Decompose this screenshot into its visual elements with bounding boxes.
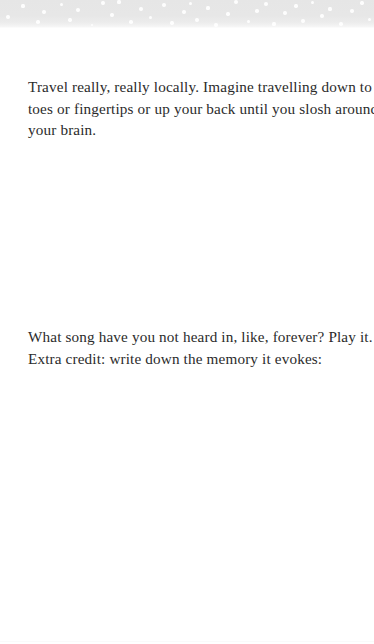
banner-dot <box>6 15 10 19</box>
paragraph-line: Travel really, really locally. Imagine t… <box>28 76 364 98</box>
paragraph-line: your brain. <box>28 119 364 141</box>
content-column: Travel really, really locally. Imagine t… <box>28 0 364 644</box>
paragraph-line: Extra credit: write down the memory it e… <box>28 348 364 370</box>
paragraph-line: toes or fingertips or up your back until… <box>28 98 364 120</box>
paragraph-travel-locally: Travel really, really locally. Imagine t… <box>28 76 364 141</box>
banner-dot <box>21 4 24 7</box>
paragraph-song-prompt: What song have you not heard in, like, f… <box>28 326 364 369</box>
bottom-divider <box>0 641 374 642</box>
paragraph-line: What song have you not heard in, like, f… <box>28 326 364 348</box>
banner-dot <box>368 18 371 21</box>
